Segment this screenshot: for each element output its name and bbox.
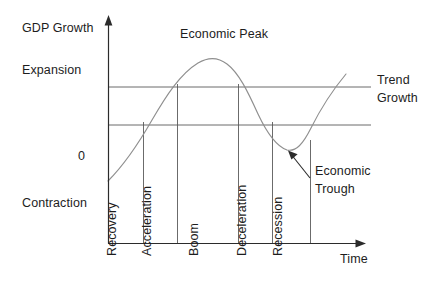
trend-growth-label-line2: Growth: [377, 91, 418, 105]
x-axis-label: Time: [340, 252, 368, 266]
zero-tick-label: 0: [78, 149, 85, 163]
expansion-region-label: Expansion: [22, 63, 81, 77]
phase-label-recovery: Recovery: [105, 202, 119, 256]
x-axis-arrow-icon: [356, 240, 367, 248]
y-axis-arrow-icon: [105, 15, 113, 26]
economic-trough-label-line2: Trough: [315, 182, 355, 196]
phase-label-boom: Boom: [187, 223, 201, 256]
phase-label-recession: Recession: [271, 197, 285, 256]
diagram-canvas: [0, 0, 438, 283]
phase-label-acceleration: Acceleration: [140, 186, 154, 256]
y-axis-label: GDP Growth: [22, 21, 94, 35]
trough-arrow-head-icon: [288, 151, 298, 160]
trough-pointer-arrow: [288, 151, 310, 179]
trend-growth-label-line1: Trend: [377, 73, 410, 87]
contraction-region-label: Contraction: [22, 196, 87, 210]
economic-trough-label-line1: Economic: [315, 164, 371, 178]
economic-peak-label: Economic Peak: [180, 27, 268, 41]
business-cycle-diagram: GDP Growth Expansion 0 Contraction Econo…: [0, 0, 438, 283]
phase-label-deceleration: Deceleration: [235, 185, 249, 256]
